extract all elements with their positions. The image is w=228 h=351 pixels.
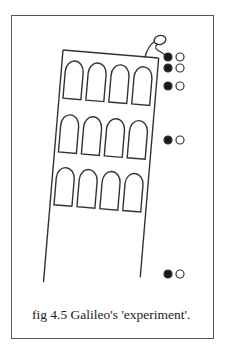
leaning-tower	[44, 50, 159, 290]
ball-pair-5	[164, 270, 184, 278]
arch-window	[123, 173, 144, 212]
arch-window	[86, 62, 107, 101]
arch-window	[77, 169, 98, 208]
arm	[156, 44, 165, 55]
figure-caption: fig 4.5 Galileo's 'experiment'.	[32, 307, 212, 323]
arch-window	[81, 116, 102, 155]
tower-right-edge	[140, 58, 158, 277]
heavy-ball	[164, 64, 172, 72]
arch-row-3	[54, 167, 144, 212]
light-ball	[176, 136, 184, 144]
arch-window	[58, 114, 79, 153]
body-back	[145, 42, 154, 57]
arch-window	[132, 66, 153, 105]
tower-left-edge	[44, 50, 63, 282]
light-ball	[176, 270, 184, 278]
heavy-ball	[164, 53, 172, 61]
galileo-illustration	[0, 0, 228, 351]
falling-balls	[164, 53, 184, 278]
arch-window	[109, 64, 130, 103]
arch-window	[104, 118, 125, 157]
arch-window	[127, 120, 148, 159]
ball-pair-4	[164, 136, 184, 144]
ball-pair-3	[164, 82, 184, 90]
galileo-figure	[145, 34, 167, 57]
arch-row-1	[63, 60, 153, 105]
light-ball	[176, 82, 184, 90]
heavy-ball	[164, 82, 172, 90]
arch-row-2	[58, 114, 148, 159]
ball-pair-2	[164, 64, 184, 72]
tower-top-edge	[63, 50, 159, 58]
ball-pair-1	[164, 53, 184, 61]
heavy-ball	[164, 136, 172, 144]
heavy-ball	[164, 270, 172, 278]
arch-window	[100, 171, 121, 210]
arch-window	[54, 167, 75, 206]
light-ball	[176, 53, 184, 61]
light-ball	[176, 64, 184, 72]
arch-window	[63, 60, 84, 99]
head	[153, 34, 167, 46]
